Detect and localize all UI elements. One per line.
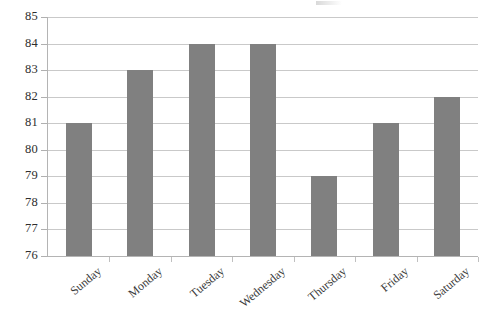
x-axis-line bbox=[47, 256, 478, 257]
x-axis-tick bbox=[232, 257, 233, 262]
bar bbox=[311, 176, 337, 256]
x-axis-tick bbox=[171, 257, 172, 262]
bar bbox=[250, 44, 276, 256]
y-axis-tick-label: 77 bbox=[12, 221, 38, 236]
y-axis-tick-label: 80 bbox=[12, 142, 38, 157]
y-axis-tick-label: 84 bbox=[12, 36, 38, 51]
x-axis-tick bbox=[294, 257, 295, 262]
x-axis-tick bbox=[417, 257, 418, 262]
bar bbox=[66, 123, 92, 256]
y-axis-tick-label: 76 bbox=[12, 248, 38, 263]
y-axis-tick-label: 81 bbox=[12, 115, 38, 130]
x-axis-category-label: Sunday bbox=[0, 264, 105, 328]
y-axis-tick-label: 85 bbox=[12, 9, 38, 24]
x-axis-tick bbox=[355, 257, 356, 262]
bar-chart: 85848382818079787776 SundayMondayTuesday… bbox=[0, 0, 490, 328]
bar bbox=[127, 70, 153, 256]
bar bbox=[189, 44, 215, 256]
y-axis-tick-label: 79 bbox=[12, 168, 38, 183]
x-axis-tick bbox=[478, 257, 479, 262]
bar bbox=[373, 123, 399, 256]
x-axis-tick bbox=[109, 257, 110, 262]
y-axis-tick-label: 83 bbox=[12, 62, 38, 77]
scan-artifact bbox=[316, 1, 342, 5]
y-axis-tick-label: 78 bbox=[12, 195, 38, 210]
bars-layer bbox=[48, 17, 478, 256]
y-axis-tick-label: 82 bbox=[12, 89, 38, 104]
bar bbox=[434, 97, 460, 256]
